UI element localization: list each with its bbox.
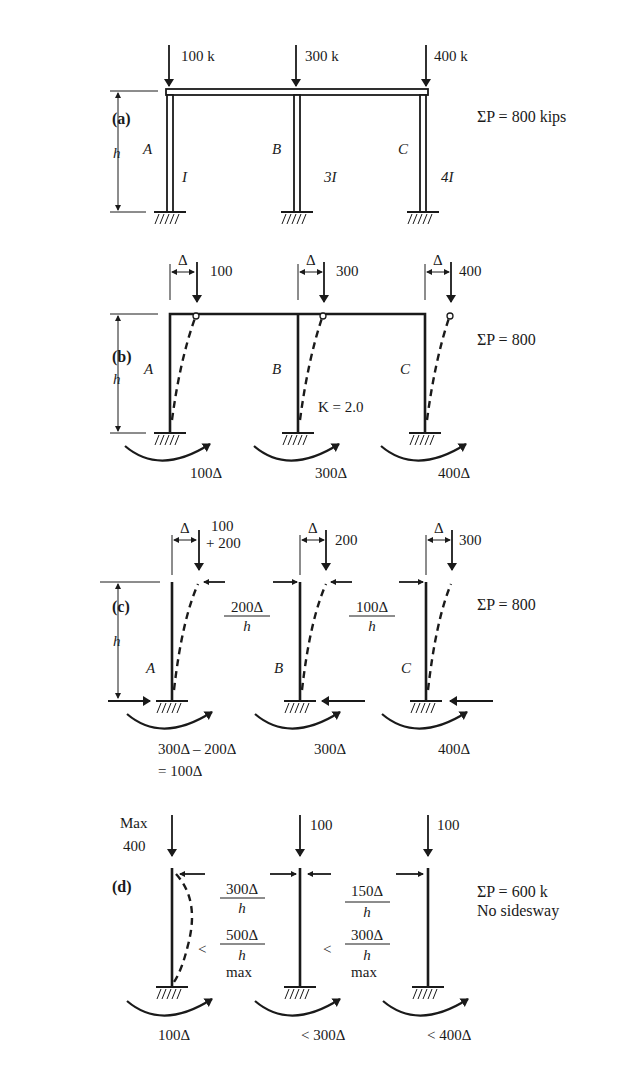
fixed-support-c xyxy=(407,212,439,224)
column-label-b: B xyxy=(272,361,281,377)
sum-loads-a: ΣP = 800 kips xyxy=(477,108,566,126)
deflected-shape-b xyxy=(302,584,326,690)
svg-text:max: max xyxy=(226,964,252,980)
k-factor: K = 2.0 xyxy=(318,399,364,415)
svg-text:max: max xyxy=(351,964,377,980)
load-b: 200 xyxy=(335,532,358,548)
panel-d-label: (d) xyxy=(112,878,132,896)
moment-arrow-a xyxy=(127,999,212,1016)
fixed-support-b xyxy=(284,701,316,713)
svg-text:Δ: Δ xyxy=(178,252,188,268)
max-load-line2: 400 xyxy=(123,838,146,854)
moment-b: 300Δ xyxy=(315,465,348,481)
moment-arrow-b xyxy=(255,999,340,1016)
column-label-b: B xyxy=(272,141,281,157)
svg-text:200Δ: 200Δ xyxy=(231,599,264,615)
column-label-a: A xyxy=(143,361,154,377)
moment-a: 100Δ xyxy=(190,465,223,481)
column-label-a: A xyxy=(145,660,156,676)
svg-text:h: h xyxy=(363,947,371,963)
fixed-support-a xyxy=(154,433,186,445)
column-b xyxy=(294,95,300,212)
fixed-support-b xyxy=(284,987,316,999)
load-a-line1: 100 xyxy=(211,518,234,534)
svg-text:<: < xyxy=(323,941,331,957)
panel-a-label: (a) xyxy=(112,110,131,128)
sum-loads-c: ΣP = 800 xyxy=(477,596,536,613)
svg-text:Δ: Δ xyxy=(434,520,444,536)
hinge-a xyxy=(193,313,199,319)
frame-stability-diagram: (a) h 100 k 300 k 400 k A B C I 3I 4I ΣP… xyxy=(0,0,622,1074)
svg-text:h: h xyxy=(238,947,246,963)
svg-text:h: h xyxy=(368,618,376,634)
svg-text:Δ: Δ xyxy=(433,252,443,268)
svg-text:h: h xyxy=(238,900,246,916)
svg-text:300Δ: 300Δ xyxy=(226,881,259,897)
delta-dim-c: Δ xyxy=(425,252,449,300)
deflected-shape-a xyxy=(172,318,195,420)
inertia-c: 4I xyxy=(441,169,455,185)
column-c xyxy=(420,95,426,212)
column-label-a: A xyxy=(142,141,153,157)
svg-text:Δ: Δ xyxy=(308,520,318,536)
column-label-c: C xyxy=(401,660,412,676)
height-label: h xyxy=(113,633,121,649)
deflected-shape-c xyxy=(427,318,449,420)
column-label-c: C xyxy=(400,361,411,377)
fixed-support-c xyxy=(409,433,441,445)
shear-fraction-1-max: < 500Δ h max xyxy=(198,927,265,980)
svg-text:Δ: Δ xyxy=(180,520,190,536)
shear-fraction-2: 100Δ h xyxy=(349,599,395,634)
svg-text:150Δ: 150Δ xyxy=(351,883,384,899)
deflected-shape-c xyxy=(428,584,451,690)
svg-text:500Δ: 500Δ xyxy=(226,927,259,943)
fixed-support-a xyxy=(156,987,188,999)
moment-a: 100Δ xyxy=(158,1027,191,1043)
moment-b: < 300Δ xyxy=(301,1027,346,1043)
moment-arrow-a xyxy=(125,444,210,461)
deflected-shape-a xyxy=(174,584,198,690)
load-c: 100 xyxy=(437,817,460,833)
height-label: h xyxy=(113,145,121,161)
inertia-b: 3I xyxy=(323,169,338,185)
moment-arrow-a xyxy=(127,712,212,729)
column-label-c: C xyxy=(398,141,409,157)
load-a: 100 k xyxy=(181,48,215,64)
delta-dim-b: Δ xyxy=(298,252,322,300)
load-b: 300 k xyxy=(305,48,339,64)
svg-text:300Δ: 300Δ xyxy=(351,927,384,943)
hinge-b xyxy=(320,313,326,319)
load-b: 300 xyxy=(336,263,359,279)
fixed-support-a xyxy=(156,701,188,713)
load-a: 100 xyxy=(210,263,233,279)
load-c: 400 xyxy=(459,263,482,279)
column-label-b: B xyxy=(274,660,283,676)
svg-text:h: h xyxy=(363,904,371,920)
shear-fraction-2-max: < 300Δ h max xyxy=(323,927,390,980)
load-a-line2: + 200 xyxy=(206,535,241,551)
svg-text:Δ: Δ xyxy=(306,252,316,268)
load-c: 400 k xyxy=(434,48,468,64)
panel-b-label: (b) xyxy=(112,348,132,366)
panel-a: (a) h 100 k 300 k 400 k A B C I 3I 4I ΣP… xyxy=(110,45,566,224)
fixed-support-c xyxy=(410,701,442,713)
delta-dim-a: Δ xyxy=(170,252,194,300)
moment-c: < 400Δ xyxy=(427,1027,472,1043)
sum-loads-d: ΣP = 600 k xyxy=(477,883,548,900)
moment-arrow-b xyxy=(254,444,339,461)
max-load-line1: Max xyxy=(120,815,148,831)
moment-a-line1: 300Δ – 200Δ xyxy=(158,741,237,757)
panel-c-label: (c) xyxy=(112,598,130,616)
sum-loads-b: ΣP = 800 xyxy=(477,331,536,348)
moment-a-line2: = 100Δ xyxy=(158,763,203,779)
moment-arrow-c xyxy=(381,444,466,461)
fixed-support-b xyxy=(281,212,313,224)
svg-text:100Δ: 100Δ xyxy=(356,599,389,615)
load-b: 100 xyxy=(310,817,333,833)
moment-c: 400Δ xyxy=(438,465,471,481)
delta-dim-b: Δ xyxy=(300,520,324,575)
inertia-a: I xyxy=(181,169,188,185)
height-label: h xyxy=(113,371,121,387)
moment-arrow-b xyxy=(255,712,340,729)
sidesway-note: No sidesway xyxy=(477,902,559,920)
